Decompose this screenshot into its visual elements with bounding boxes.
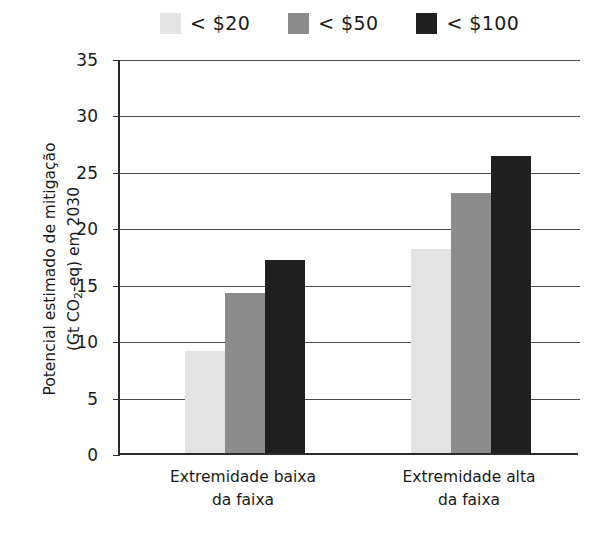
y-tick-label-35: 35 [76, 50, 98, 70]
x-axis-tick-labels: Extremidade baixada faixaExtremidade alt… [118, 466, 578, 526]
y-tick-label-10: 10 [76, 332, 98, 352]
legend-item-2: < $100 [416, 12, 519, 34]
y-tick-0 [113, 455, 120, 456]
bar-0-2 [265, 260, 305, 453]
x-axis-label-line: da faixa [359, 489, 579, 512]
y-tick-35 [113, 60, 120, 61]
x-axis-label-0: Extremidade baixada faixa [133, 466, 353, 513]
chart-legend: < $20 < $50 < $100 [160, 8, 560, 38]
x-axis-label-1: Extremidade altada faixa [359, 466, 579, 513]
bar-chart: < $20 < $50 < $100 Potencial estimado de… [0, 0, 607, 538]
legend-swatch-icon-0 [160, 13, 181, 34]
legend-swatch-icon-2 [416, 13, 437, 34]
x-axis-label-line: Extremidade baixa [133, 466, 353, 489]
bar-1-0 [411, 249, 451, 453]
y-tick-30 [113, 116, 120, 117]
y-tick-20 [113, 229, 120, 230]
y-tick-label-25: 25 [76, 163, 98, 183]
legend-label-2: < $100 [446, 12, 519, 34]
bar-1-1 [451, 193, 491, 453]
y-tick-label-5: 5 [87, 389, 98, 409]
bar-1-2 [491, 156, 531, 453]
x-axis-label-line: da faixa [133, 489, 353, 512]
legend-label-0: < $20 [190, 12, 250, 34]
y-tick-label-20: 20 [76, 219, 98, 239]
plot-area [118, 60, 578, 455]
gridline-35 [120, 60, 580, 61]
y-tick-label-15: 15 [76, 276, 98, 296]
gridline-30 [120, 116, 580, 117]
y-axis-tick-labels: 05101520253035 [0, 60, 112, 455]
legend-label-1: < $50 [318, 12, 378, 34]
legend-swatch-icon-1 [288, 13, 309, 34]
legend-item-0: < $20 [160, 12, 250, 34]
y-tick-15 [113, 286, 120, 287]
bar-0-0 [185, 351, 225, 453]
y-tick-label-0: 0 [87, 445, 98, 465]
y-tick-label-30: 30 [76, 106, 98, 126]
bar-0-1 [225, 293, 265, 453]
y-tick-5 [113, 399, 120, 400]
y-tick-10 [113, 342, 120, 343]
legend-item-1: < $50 [288, 12, 378, 34]
x-axis-label-line: Extremidade alta [359, 466, 579, 489]
y-tick-25 [113, 173, 120, 174]
